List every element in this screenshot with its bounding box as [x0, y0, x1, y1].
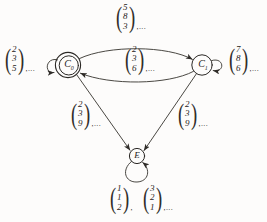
edge-self-loop-E[interactable] — [125, 161, 147, 182]
vector-values: 5 8 3 — [123, 3, 128, 31]
paren-open: ( — [125, 44, 131, 74]
paren-open: ( — [116, 2, 122, 32]
vector-values: 2 3 5 — [12, 45, 17, 73]
paren-open: ( — [110, 183, 116, 213]
paren-open: ( — [5, 44, 11, 74]
ellipsis: ,... — [137, 22, 147, 32]
vector-values: 3 2 1 — [150, 184, 155, 212]
vector-values: 1 1 2 — [117, 184, 122, 212]
node-label-E: E — [130, 150, 144, 160]
ellipsis: ,... — [250, 64, 260, 74]
vector-values: 7 8 6 — [236, 45, 241, 73]
paren-close: ) — [17, 44, 23, 74]
edge-label-left: ( 2 3 5 ) ,... — [3, 44, 35, 74]
paren-open: ( — [178, 99, 184, 129]
node-label-C1: C1 — [193, 58, 213, 71]
paren-close: ) — [155, 183, 161, 213]
paren-close: ) — [137, 44, 143, 74]
paren-open: ( — [229, 44, 235, 74]
edge-label-lower-left: ( 2 3 9 ) ,... — [69, 99, 101, 129]
paren-close: ) — [190, 99, 196, 129]
node-label-C0: C0 — [59, 58, 79, 71]
edge-label-lower-right: ( 2 3 9 ) ,... — [176, 99, 208, 129]
paren-open: ( — [71, 99, 77, 129]
ellipsis: ,... — [146, 64, 156, 74]
edge-label-right: ( 7 8 6 ) ,... — [227, 44, 259, 74]
edge-label-top: ( 5 8 3 ) ,... — [114, 2, 146, 32]
vector-values: 2 3 9 — [78, 100, 83, 128]
separator: , — [131, 203, 133, 213]
ellipsis: ,... — [164, 203, 174, 213]
paren-open: ( — [143, 183, 149, 213]
vector-values: 2 3 9 — [185, 100, 190, 128]
paren-close: ) — [83, 99, 89, 129]
edge-label-middle: ( 2 3 6 ) ,... — [123, 44, 155, 74]
ellipsis: ,... — [92, 119, 102, 129]
paren-close: ) — [241, 44, 247, 74]
ellipsis: ,... — [26, 64, 36, 74]
ellipsis: ,... — [199, 119, 209, 129]
edge-label-bottom-first: ( 1 1 2 ) , — [108, 183, 133, 213]
vector-values: 2 3 6 — [132, 45, 137, 73]
edge-self-loop-C1[interactable] — [212, 60, 222, 71]
paren-close: ) — [122, 183, 128, 213]
edge-label-bottom-second: ( 3 2 1 ) ,... — [141, 183, 173, 213]
paren-close: ) — [128, 2, 134, 32]
state-diagram-canvas — [0, 0, 267, 222]
